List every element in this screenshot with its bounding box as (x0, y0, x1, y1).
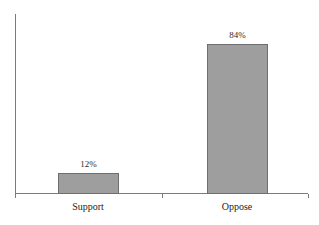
bar-support (58, 173, 119, 194)
bar-chart: 12% 84% Support Oppose (0, 0, 319, 225)
x-axis-category-label-support: Support (38, 201, 138, 213)
y-axis-line (15, 14, 16, 194)
x-axis-tick-middle (162, 194, 163, 198)
x-axis-tick-end (308, 194, 309, 198)
bar-value-label-support: 12% (58, 159, 119, 170)
bar-value-label-oppose: 84% (207, 30, 268, 41)
x-axis-category-label-oppose: Oppose (187, 201, 287, 213)
x-axis-tick-start (15, 194, 16, 198)
bar-oppose (207, 44, 268, 194)
